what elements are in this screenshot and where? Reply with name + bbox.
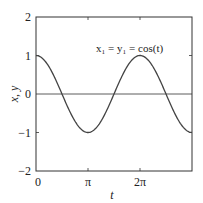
x-tick-2pi: 2π [134, 175, 146, 189]
y-tick-minus1: −1 [18, 126, 31, 140]
y-tick-2: 2 [25, 10, 31, 24]
x-tick-0: 0 [35, 175, 41, 189]
x-tick-pi: π [85, 175, 91, 189]
y-axis-label: x, y [7, 85, 21, 103]
curve-annotation: x₁ = y₁ = cos(t) [96, 42, 163, 55]
chart: 2 1 0 −1 −2 0 π 2π t x, y x₁ = y₁ = cos(… [0, 0, 203, 203]
y-tick-1: 1 [25, 49, 31, 63]
y-tick-minus2: −2 [18, 164, 31, 178]
x-axis-label: t [110, 188, 114, 202]
y-tick-0: 0 [25, 87, 31, 101]
